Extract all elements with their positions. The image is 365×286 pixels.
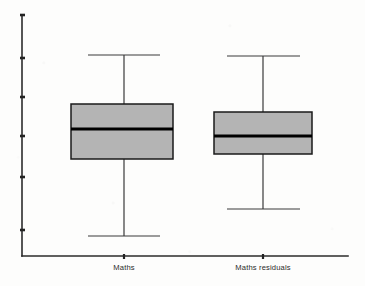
box-body-maths [71, 104, 173, 159]
box-maths-residuals [214, 56, 312, 209]
category-label-maths: Maths [113, 263, 134, 272]
category-label-maths-residuals: Maths residuals [235, 263, 290, 272]
box-maths [71, 55, 173, 236]
boxplot-canvas [0, 0, 365, 286]
box-body-maths-residuals [214, 112, 312, 154]
boxplot-figure: Maths Maths residuals [0, 0, 365, 286]
